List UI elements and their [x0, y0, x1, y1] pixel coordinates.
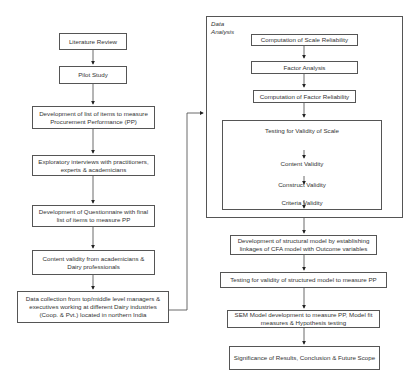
step-label: Factor Analysis — [284, 64, 326, 72]
step-scale-reliability: Computation of Scale Reliability — [251, 34, 358, 46]
step-label: Data collection from top/middle level ma… — [21, 295, 165, 319]
validity-content: Content Validity — [222, 160, 382, 168]
step-significance: Significance of Results, Conclusion & Fu… — [229, 346, 380, 370]
step-label: Exploratory interviews with practitioner… — [36, 158, 151, 174]
step-data-collection: Data collection from top/middle level ma… — [17, 291, 169, 323]
step-label: Development of Questionnaire with final … — [36, 208, 151, 224]
step-factor-analysis: Factor Analysis — [251, 61, 358, 74]
step-literature-review: Literature Review — [59, 33, 127, 50]
step-testing-structured-model: Testing for validity of structured model… — [220, 272, 387, 288]
data-analysis-label: Data Analysis — [211, 20, 241, 36]
step-sem-model: SEM Model development to measure PP, Mod… — [227, 310, 380, 328]
validity-construct: Construct Validity — [222, 181, 382, 189]
step-label: Computation of Scale Reliability — [261, 36, 348, 44]
step-label: Development of list of items to measure … — [36, 110, 151, 126]
step-label: Literature Review — [69, 38, 117, 46]
step-label: Development of structural model by estab… — [234, 237, 373, 253]
step-label: SEM Model development to measure PP, Mod… — [231, 311, 376, 327]
validity-title: Testing for Validity of Scale — [222, 127, 382, 135]
step-label: Pilot Study — [78, 71, 108, 79]
step-structural-model: Development of structural model by estab… — [230, 235, 377, 255]
step-development-list: Development of list of items to measure … — [32, 106, 155, 129]
step-label: Content validity from academicians & Dai… — [36, 255, 151, 271]
validity-criteria: Criteria Validity — [222, 199, 382, 207]
step-questionnaire: Development of Questionnaire with final … — [32, 205, 155, 227]
step-factor-reliability: Computation of Factor Reliability — [253, 90, 356, 103]
step-pilot-study: Pilot Study — [59, 66, 127, 84]
step-label: Significance of Results, Conclusion & Fu… — [234, 354, 375, 362]
step-exploratory-interviews: Exploratory interviews with practitioner… — [32, 155, 155, 176]
step-label: Computation of Factor Reliability — [260, 93, 349, 101]
step-content-validity: Content validity from academicians & Dai… — [32, 250, 155, 275]
step-label: Testing for validity of structured model… — [230, 276, 377, 284]
